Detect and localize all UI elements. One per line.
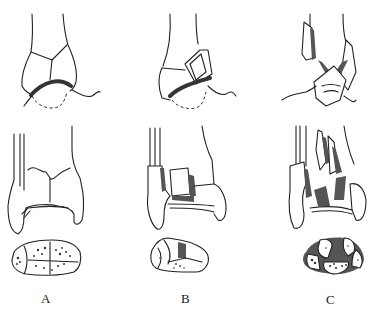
panel-c-frontal-view xyxy=(289,126,366,228)
panel-label-a: A xyxy=(41,291,50,307)
fracture-diagram xyxy=(0,0,379,324)
panel-b-frontal-view xyxy=(147,126,226,229)
panel-label-c: C xyxy=(326,292,335,308)
panel-a-frontal-view xyxy=(8,126,84,234)
panel-b-lateral-view xyxy=(159,14,236,109)
panel-a-axial-view xyxy=(12,240,81,275)
panel-c-lateral-view xyxy=(282,14,356,106)
panel-b-axial-view xyxy=(151,238,209,272)
panel-a-lateral-view xyxy=(22,14,100,108)
panel-c-axial-view xyxy=(303,238,364,274)
panel-label-b: B xyxy=(181,291,190,307)
